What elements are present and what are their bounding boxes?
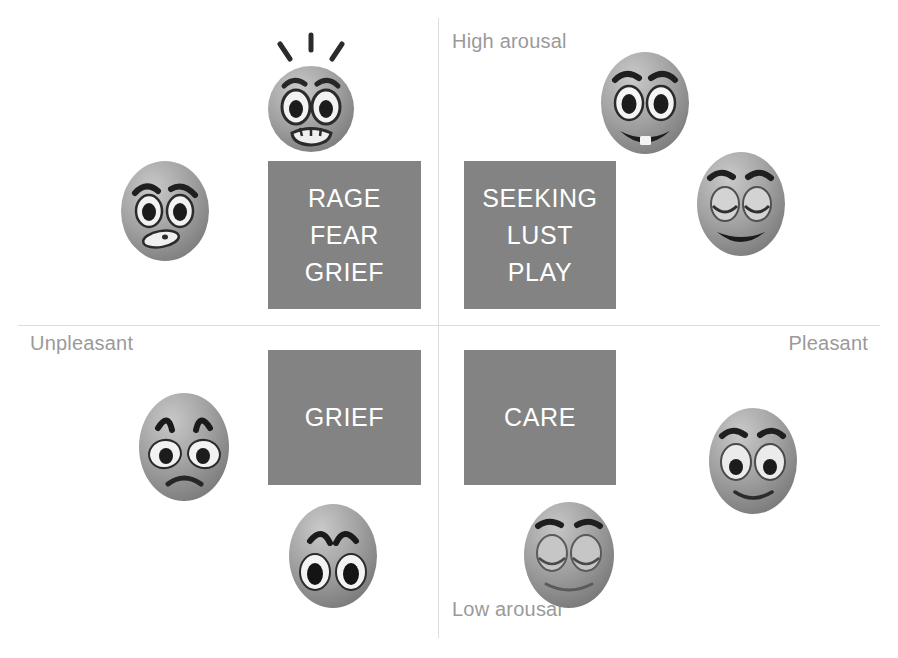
- face-laughing-icon: [688, 148, 794, 260]
- quadrant-box-upper-left: RAGE FEAR GRIEF: [268, 161, 421, 309]
- affective-circumplex-diagram: High arousal Low arousal Unpleasant Plea…: [0, 0, 898, 658]
- face-worried-icon: [280, 500, 386, 612]
- quadrant-line: GRIEF: [305, 399, 384, 436]
- quadrant-line: FEAR: [310, 217, 379, 254]
- quadrant-line: RAGE: [308, 180, 381, 217]
- axis-label-unpleasant: Unpleasant: [30, 332, 133, 355]
- quadrant-line: CARE: [504, 399, 576, 436]
- face-crying-icon: [128, 388, 240, 506]
- axis-label-pleasant: Pleasant: [789, 332, 868, 355]
- quadrant-box-lower-left: GRIEF: [268, 350, 421, 485]
- quadrant-line: GRIEF: [305, 254, 384, 291]
- face-excited-icon: [593, 48, 697, 158]
- face-shocked-icon: [259, 32, 363, 154]
- face-calm-icon: [514, 498, 624, 612]
- face-content-icon: [700, 404, 806, 518]
- horizontal-axis-line: [18, 325, 880, 326]
- quadrant-line: LUST: [507, 217, 573, 254]
- axis-label-high-arousal: High arousal: [452, 30, 567, 53]
- quadrant-line: SEEKING: [482, 180, 597, 217]
- quadrant-box-upper-right: SEEKING LUST PLAY: [464, 161, 616, 309]
- quadrant-line: PLAY: [508, 254, 572, 291]
- quadrant-box-lower-right: CARE: [464, 350, 616, 485]
- face-angry-icon: [113, 157, 217, 265]
- vertical-axis-line: [438, 18, 439, 638]
